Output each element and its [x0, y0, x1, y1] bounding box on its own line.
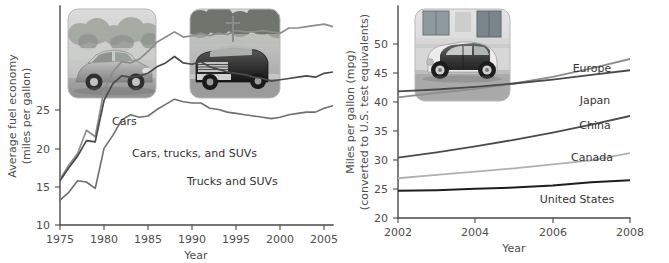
left-chart-panel: 25 20 15 10 1975 1980 1985 1990 1995 200… [0, 0, 340, 263]
x-tick-label: 1995 [222, 233, 250, 246]
right-chart-x-axis-title: Year [501, 242, 526, 255]
series-annotation-cars-trucks-suvs: Cars, trucks, and SUVs [132, 147, 257, 160]
series-label-united-states: United States [540, 193, 615, 206]
y-tick-label: 20 [36, 143, 50, 156]
y-tick-label: 10 [36, 219, 50, 232]
x-tick-label: 1985 [134, 233, 162, 246]
right-chart-x-ticks: 2002 2004 2006 2008 [384, 218, 644, 239]
left-chart-x-axis-title: Year [183, 249, 208, 262]
x-tick-label: 2006 [539, 226, 567, 239]
x-tick-label: 2008 [616, 226, 644, 239]
right-chart-y-ticks: 50 45 40 35 30 25 20 [374, 38, 398, 225]
series-label-japan: Japan [579, 94, 611, 107]
y-tick-label: 15 [36, 181, 50, 194]
series-label-canada: Canada [571, 151, 613, 164]
y-tick-label: 50 [374, 38, 388, 51]
right-chart-y-axis-title-line1: Miles per gallon (mpg) [344, 50, 357, 174]
left-chart-y-ticks: 25 20 15 10 [36, 104, 60, 232]
figure-container: 25 20 15 10 1975 1980 1985 1990 1995 200… [0, 0, 669, 263]
y-tick-label: 30 [374, 154, 388, 167]
x-tick-label: 1975 [46, 233, 74, 246]
y-tick-label: 40 [374, 96, 388, 109]
left-chart-y-axis-title-line2: (miles per gallon) [20, 68, 33, 165]
left-chart-y-axis-title-line1: Average fuel economy [6, 54, 19, 178]
series-label-europe: Europe [573, 62, 612, 75]
right-chart-panel: 50 45 40 35 30 25 20 2002 2004 2006 2008 [340, 0, 669, 263]
x-tick-label: 1980 [90, 233, 118, 246]
x-tick-label: 2005 [310, 233, 338, 246]
left-chart-x-ticks: 1975 1980 1985 1990 1995 2000 2005 [46, 225, 338, 246]
y-tick-label: 25 [374, 183, 388, 196]
right-chart-y-axis-title-line2: (converted to U.S. test equivalents) [358, 14, 371, 210]
y-tick-label: 35 [374, 125, 388, 138]
series-label-china: China [579, 119, 610, 132]
y-tick-label: 25 [36, 104, 50, 117]
series-annotation-cars: Cars [112, 115, 137, 128]
y-tick-label: 45 [374, 67, 388, 80]
x-tick-label: 1990 [178, 233, 206, 246]
y-tick-label: 20 [374, 212, 388, 225]
series-annotation-trucks-suvs: Trucks and SUVs [186, 175, 278, 188]
international-fuel-economy-chart: 50 45 40 35 30 25 20 2002 2004 2006 2008 [340, 0, 669, 263]
pickup-truck-photo [187, 3, 289, 98]
series-line-united-states [398, 180, 630, 191]
x-tick-label: 2004 [461, 226, 489, 239]
x-tick-label: 2002 [384, 226, 412, 239]
us-average-fuel-economy-chart: 25 20 15 10 1975 1980 1985 1990 1995 200… [0, 0, 340, 263]
x-tick-label: 2000 [266, 233, 294, 246]
